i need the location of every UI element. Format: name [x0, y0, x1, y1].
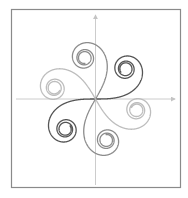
clothoid-diagram — [0, 0, 188, 198]
